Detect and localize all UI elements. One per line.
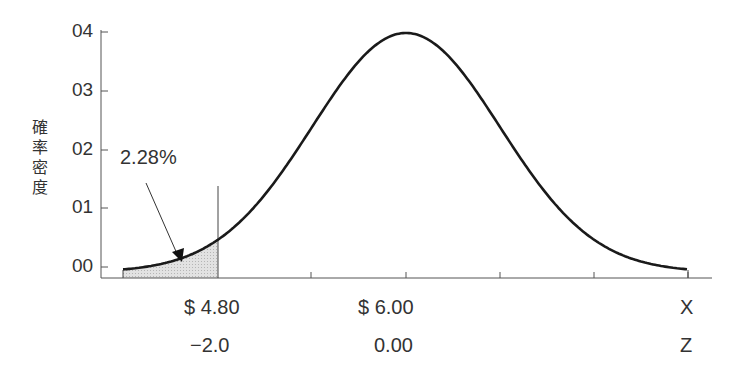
z-row-name: Z	[680, 334, 692, 357]
annotation-arrow	[146, 183, 184, 262]
z-value-label: −2.0	[190, 334, 229, 357]
ylabel-char: 密	[30, 158, 50, 178]
y-tick-label: 04	[72, 20, 93, 42]
y-tick-label: 03	[72, 79, 93, 101]
x-value-label: $ 6.00	[358, 296, 414, 319]
y-tick-label: 02	[72, 138, 93, 160]
ylabel-char: 確	[30, 118, 50, 138]
y-tick-label: 00	[72, 255, 93, 277]
normal-distribution-chart	[0, 0, 730, 388]
z-value-label: 0.00	[374, 334, 413, 357]
y-axis-label: 確 率 密 度	[30, 118, 50, 198]
x-value-label: $ 4.80	[184, 296, 240, 319]
density-curve	[123, 33, 687, 269]
y-tick-label: 01	[72, 196, 93, 218]
ylabel-char: 度	[30, 178, 50, 198]
ylabel-char: 率	[30, 138, 50, 158]
x-row-name: X	[680, 296, 693, 319]
y-ticks	[101, 32, 108, 267]
x-ticks	[311, 272, 688, 278]
annotation-label: 2.28%	[120, 146, 177, 169]
shaded-tail-area	[123, 240, 218, 278]
